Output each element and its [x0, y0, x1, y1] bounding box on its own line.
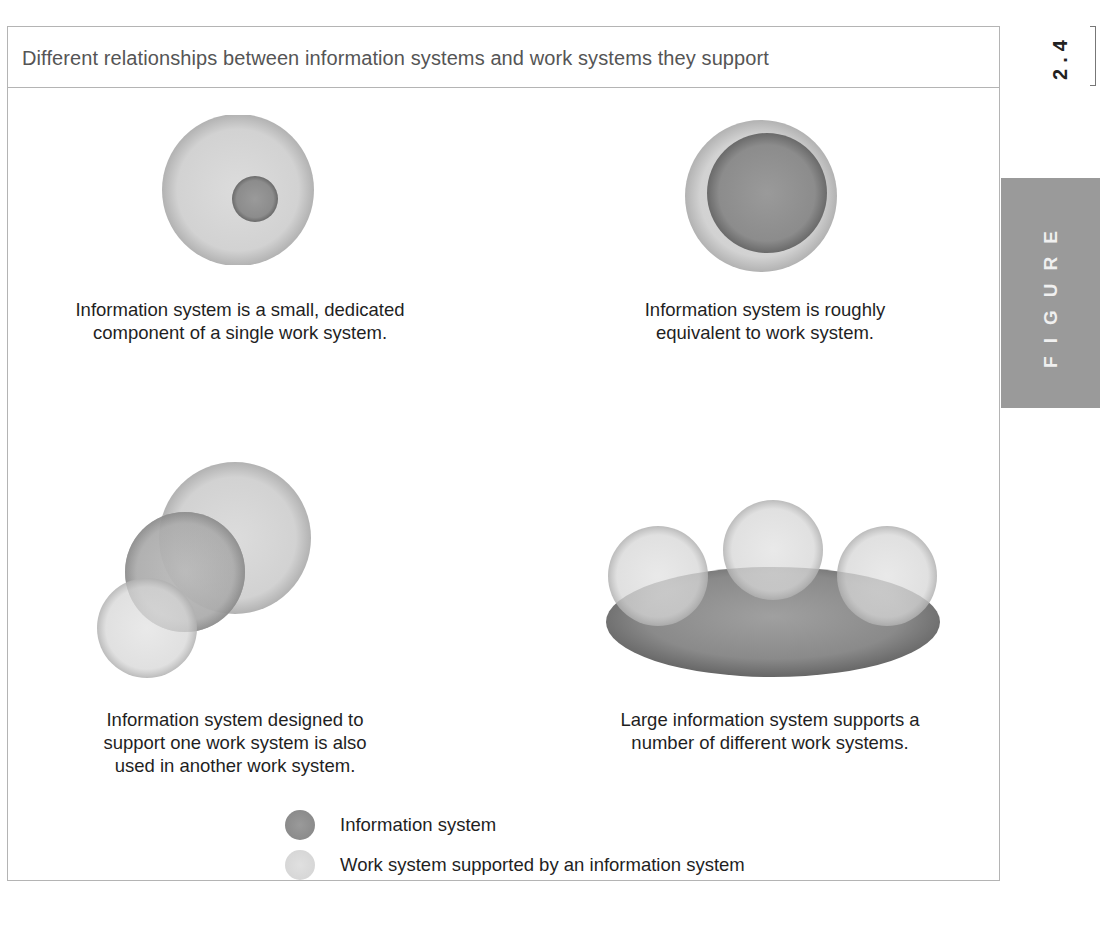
legend-item-work-system: Work system supported by an information … [285, 850, 745, 880]
work-system-circle-right [837, 526, 937, 626]
caption-line: equivalent to work system. [555, 321, 975, 344]
figure-tab-label: FIGURE [1040, 218, 1062, 368]
panel-small-dedicated-caption: Information system is a small, dedicated… [30, 298, 450, 344]
panel-roughly-equivalent-diagram [680, 118, 850, 278]
caption-line: number of different work systems. [560, 731, 980, 754]
caption-line: Large information system supports a [560, 708, 980, 731]
panel-roughly-equivalent-caption: Information system is roughly equivalent… [555, 298, 975, 344]
caption-line: used in another work system. [25, 754, 445, 777]
caption-line: Information system designed to [25, 708, 445, 731]
caption-line: Information system is roughly [555, 298, 975, 321]
work-system-circle-small [97, 578, 197, 678]
figure-number-bracket [1090, 26, 1096, 86]
information-system-circle [232, 176, 278, 222]
figure-title: Different relationships between informat… [22, 47, 769, 70]
information-system-circle [707, 133, 827, 253]
figure-title-bar: Different relationships between informat… [8, 27, 999, 88]
figure-number-text: 2.4 [1049, 34, 1072, 80]
legend-item-information-system: Information system [285, 810, 496, 840]
panel-large-supports-many-caption: Large information system supports a numb… [560, 708, 980, 754]
panel-shared-across-two-caption: Information system designed to support o… [25, 708, 445, 777]
work-system-swatch-icon [285, 850, 315, 880]
panel-small-dedicated-diagram [150, 115, 330, 265]
legend-label: Information system [340, 814, 496, 836]
caption-line: support one work system is also [25, 731, 445, 754]
information-system-swatch-icon [285, 810, 315, 840]
caption-line: component of a single work system. [30, 321, 450, 344]
caption-line: Information system is a small, dedicated [30, 298, 450, 321]
legend-label: Work system supported by an information … [340, 854, 745, 876]
panel-large-supports-many-diagram [600, 495, 950, 685]
panel-shared-across-two-diagram [80, 450, 340, 690]
work-system-circle-left [608, 526, 708, 626]
figure-number: 2.4 [1040, 22, 1080, 92]
figure-tab: FIGURE [1001, 178, 1100, 408]
work-system-circle-middle [723, 500, 823, 600]
